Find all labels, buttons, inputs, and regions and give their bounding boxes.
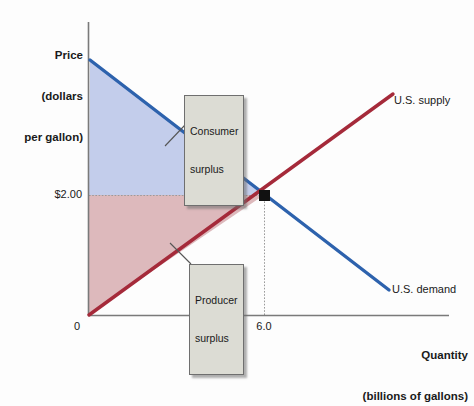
y-axis-title-line3: per gallon) (0, 131, 83, 145)
consumer-surplus-callout: Consumer surplus (184, 95, 244, 206)
consumer-surplus-callout-line1: Consumer (190, 125, 238, 138)
x-axis-title: Quantity (billions of gallons) (268, 322, 468, 406)
supply-curve-label: U.S. supply (394, 94, 450, 107)
y-axis-title: Price (dollars per gallon) (0, 22, 83, 171)
producer-surplus-callout-line1: Producer (195, 294, 238, 307)
x-axis-title-line2: (billions of gallons) (268, 390, 468, 404)
x-axis-title-line1: Quantity (268, 349, 468, 363)
producer-surplus-callout-line2: surplus (195, 332, 238, 345)
equilibrium-point-marker[interactable] (259, 190, 270, 201)
y-axis-title-line2: (dollars (0, 90, 83, 104)
y-axis-title-line1: Price (0, 49, 83, 63)
y-axis-tick-label-price: $2.00 (20, 188, 82, 201)
x-axis-tick-label-quantity: 6.0 (246, 320, 282, 333)
consumer-surplus-callout-line2: surplus (190, 163, 238, 176)
demand-curve-label: U.S. demand (392, 283, 456, 296)
x-axis-tick-label-origin: 0 (70, 320, 84, 333)
producer-surplus-callout: Producer surplus (189, 264, 244, 375)
